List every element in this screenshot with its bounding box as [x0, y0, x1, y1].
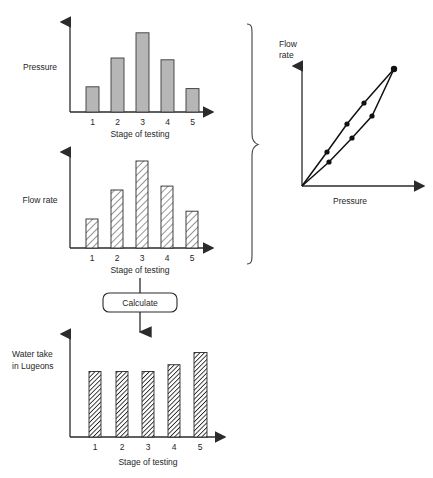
water-take-bar-1: [89, 372, 101, 438]
flow-rate-tick-1: 1: [90, 253, 95, 263]
flow-rate-bar-3: [136, 161, 148, 248]
flow-rate-tick-4: 4: [165, 253, 170, 263]
water-take-chart-y-axis-label-line1: Water take: [12, 349, 53, 359]
water-take-bar-2: [116, 372, 128, 438]
loop-point-4: [391, 66, 397, 72]
water-take-bar-4: [168, 365, 180, 437]
water-take-chart-y-axis-label-line2: in Lugeons: [12, 361, 54, 371]
calculate-process: Calculate: [103, 278, 177, 332]
flow-rate-chart-x-axis-label: Stage of testing: [110, 265, 169, 275]
grouping-brace: [247, 24, 258, 264]
pressure-bar-5: [186, 89, 199, 112]
flow-rate-bar-2: [111, 190, 123, 248]
flow-rate-bar-1: [86, 219, 98, 248]
flow-rate-chart: 1 2 3 4 5 Flow rate Stage of testing: [23, 152, 213, 275]
loop-point-3: [361, 100, 366, 105]
flow-rate-bar-5: [186, 211, 198, 248]
pressure-flow-loop-chart: Flow rate Pressure: [279, 39, 424, 206]
pressure-tick-3: 3: [140, 117, 145, 127]
water-take-chart: 1 2 3 4 5 Water take in Lugeons Stage of…: [12, 334, 225, 467]
pressure-tick-1: 1: [90, 117, 95, 127]
water-take-bar-3: [142, 372, 154, 438]
pressure-chart-x-axis-label: Stage of testing: [110, 129, 169, 139]
flow-rate-bar-4: [161, 186, 173, 248]
calculate-label: Calculate: [122, 298, 158, 308]
flow-diagram-figure: 1 2 3 4 5 Pressure Stage of testing 1 2 …: [0, 0, 433, 478]
water-take-tick-5: 5: [198, 442, 203, 452]
loop-chart-y-axis-label-line2: rate: [279, 50, 294, 60]
loop-chart-x-axis-label: Pressure: [333, 196, 367, 206]
loop-chart-y-axis-label-line1: Flow: [279, 39, 298, 49]
loop-point-7: [369, 113, 374, 118]
pressure-tick-5: 5: [190, 117, 195, 127]
pressure-tick-2: 2: [115, 117, 120, 127]
water-take-tick-4: 4: [172, 442, 177, 452]
water-take-chart-x-axis-label: Stage of testing: [118, 457, 177, 467]
pressure-chart-y-axis-label: Pressure: [23, 62, 57, 72]
loop-point-6: [349, 135, 354, 140]
pressure-bar-2: [111, 58, 124, 112]
loop-point-2: [344, 121, 349, 126]
water-take-bar-5: [194, 353, 207, 438]
pressure-tick-4: 4: [165, 117, 170, 127]
pressure-bar-4: [161, 60, 174, 112]
loop-point-5: [326, 159, 331, 164]
flow-rate-tick-2: 2: [115, 253, 120, 263]
pressure-chart: 1 2 3 4 5 Pressure Stage of testing: [23, 22, 213, 139]
water-take-tick-2: 2: [120, 442, 125, 452]
pressure-bar-3: [136, 33, 149, 112]
loop-series-ascending: [302, 69, 394, 186]
water-take-tick-1: 1: [93, 442, 98, 452]
flow-rate-tick-3: 3: [140, 253, 145, 263]
flow-rate-chart-y-axis-label: Flow rate: [23, 195, 58, 205]
flow-rate-tick-5: 5: [190, 253, 195, 263]
loop-point-1: [324, 149, 329, 154]
brace-path: [247, 24, 258, 264]
pressure-bar-1: [86, 87, 99, 112]
water-take-tick-3: 3: [146, 442, 151, 452]
